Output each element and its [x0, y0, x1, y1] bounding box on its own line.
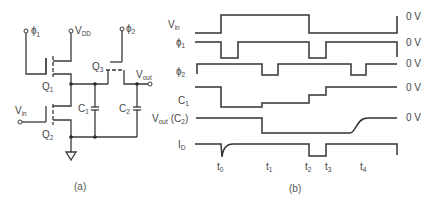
time-marker-t2: t2	[305, 161, 312, 173]
signal-label-phi1: ϕ1	[176, 37, 186, 49]
ref-label-phi1: 0 V	[406, 37, 421, 48]
ref-label-vin: 0 V	[406, 11, 421, 22]
phi1-gate-wire	[26, 33, 46, 74]
phi1-waveform	[195, 42, 397, 58]
q1-label: Q1	[42, 81, 54, 93]
signal-label-phi2: ϕ2	[176, 66, 186, 78]
c1-waveform	[195, 87, 397, 107]
c2-label: C2	[119, 103, 130, 115]
vin-label: Vin	[15, 105, 27, 117]
circuit-schematic: ϕ1 VDD ϕ2 Q1 Q2 Q3 Vin Vout C1 C2 (a)	[15, 23, 152, 192]
vin-terminal-icon	[18, 120, 22, 124]
signal-label-c1: C1	[178, 95, 189, 107]
phi2-waveform	[197, 64, 397, 75]
time-marker-t1: t1	[266, 161, 273, 173]
vin-waveform	[195, 15, 397, 33]
phi1-terminal-icon	[24, 29, 28, 33]
time-marker-t4: t4	[360, 161, 367, 173]
q1-source-wire	[53, 74, 71, 84]
ref-label-c1: 0 V	[406, 82, 421, 93]
figure-b-caption: (b)	[289, 183, 301, 194]
id-waveform	[195, 144, 397, 157]
vdd-label: VDD	[75, 25, 91, 37]
vout-terminal-icon	[148, 82, 152, 86]
figure-a-caption: (a)	[74, 181, 86, 192]
ground-icon	[66, 152, 76, 160]
q1-drain-wire	[53, 33, 71, 61]
phi1-label: ϕ1	[31, 25, 41, 38]
vdd-terminal-icon	[69, 29, 73, 33]
timing-diagram: Vin ϕ1 ϕ2 C1 Vout(C2) ID 0 V 0 V 0 V 0 V…	[152, 11, 421, 194]
time-marker-t0: t0	[217, 161, 224, 173]
ref-label-vout: 0 V	[406, 112, 421, 123]
phi2-label: ϕ2	[126, 23, 136, 35]
signal-label-id: ID	[178, 139, 186, 151]
figure-canvas: ϕ1 VDD ϕ2 Q1 Q2 Q3 Vin Vout C1 C2 (a) Vi…	[0, 0, 438, 206]
signal-label-vout: Vout(C2)	[152, 113, 188, 125]
ref-label-phi2: 0 V	[406, 58, 421, 69]
time-marker-t3: t3	[325, 161, 332, 173]
signal-label-vin: Vin	[168, 19, 180, 31]
q2-source-wire	[53, 120, 71, 137]
c1-label: C1	[78, 103, 89, 115]
q3-label: Q3	[92, 61, 104, 73]
phi2-terminal-icon	[120, 27, 124, 31]
vout-waveform	[196, 118, 397, 133]
q2-drain-wire	[53, 84, 71, 106]
vout-label: Vout	[136, 69, 152, 81]
q2-label: Q2	[42, 129, 54, 141]
